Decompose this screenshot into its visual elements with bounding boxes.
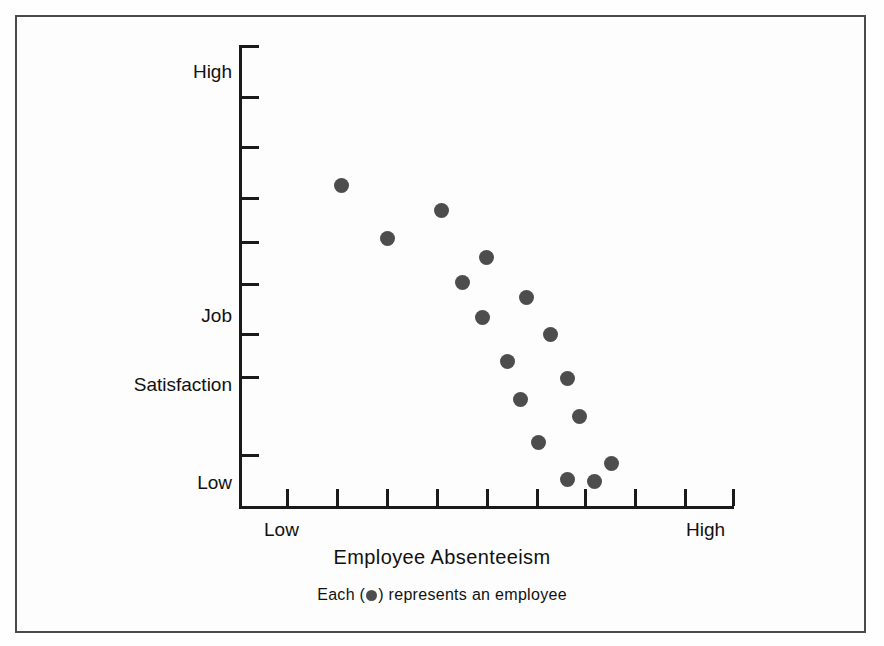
data-point (587, 474, 602, 489)
y-axis-tick (242, 45, 259, 48)
caption-text-after: ) represents an employee (378, 586, 567, 603)
x-axis-tick (386, 489, 389, 506)
data-point (519, 290, 534, 305)
x-axis-tick (634, 489, 637, 506)
x-axis-low-label: Low (264, 518, 299, 541)
y-axis-title-line1: Job (134, 304, 232, 327)
legend-marker-icon (366, 590, 377, 601)
x-axis-tick (684, 489, 687, 506)
data-point (560, 472, 575, 487)
x-axis-high-label: High (686, 518, 725, 541)
data-point (543, 327, 558, 342)
y-axis-line (239, 45, 242, 509)
data-point (500, 354, 515, 369)
y-axis-title: Job Satisfaction (134, 258, 232, 442)
scatter-plot-figure: High Low Job Satisfaction Low High Emplo… (0, 0, 884, 646)
y-axis-tick (242, 146, 259, 149)
x-axis-tick (536, 489, 539, 506)
data-point (479, 250, 494, 265)
figure-caption: Each () represents an employee (0, 586, 884, 604)
x-axis-line (239, 506, 734, 509)
y-axis-tick (242, 283, 259, 286)
x-axis-tick (732, 489, 735, 506)
x-axis-tick (486, 489, 489, 506)
plot-area: High Low Job Satisfaction Low High Emplo… (0, 0, 884, 646)
y-axis-tick (242, 96, 259, 99)
data-point (455, 275, 470, 290)
data-point (604, 456, 619, 471)
x-axis-tick (239, 489, 242, 506)
y-axis-tick (242, 333, 259, 336)
y-axis-tick (242, 241, 259, 244)
data-point (572, 409, 587, 424)
x-axis-tick (286, 489, 289, 506)
y-axis-low-label: Low (197, 471, 232, 494)
y-axis-tick (242, 197, 259, 200)
data-point (513, 392, 528, 407)
y-axis-tick (242, 454, 259, 457)
x-axis-tick (336, 489, 339, 506)
x-axis-tick (584, 489, 587, 506)
data-point (531, 435, 546, 450)
y-axis-high-label: High (193, 60, 232, 83)
data-point (560, 371, 575, 386)
x-axis-tick (436, 489, 439, 506)
data-point (380, 231, 395, 246)
y-axis-tick (242, 376, 259, 379)
x-axis-title: Employee Absenteeism (0, 546, 884, 569)
data-point (334, 178, 349, 193)
data-point (475, 310, 490, 325)
data-point (434, 203, 449, 218)
y-axis-title-line2: Satisfaction (134, 373, 232, 396)
caption-text-before: Each ( (317, 586, 365, 603)
